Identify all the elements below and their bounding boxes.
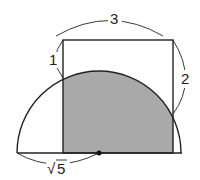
shaded-region <box>63 40 173 153</box>
label-2: 2 <box>181 70 189 87</box>
label-3: 3 <box>110 10 118 27</box>
sqrt-sign: √ <box>47 160 56 177</box>
label-sqrt5: 5 <box>57 160 65 177</box>
geometry-diagram: 3 1 2 √ 5 <box>0 0 200 180</box>
label-1: 1 <box>49 51 57 68</box>
